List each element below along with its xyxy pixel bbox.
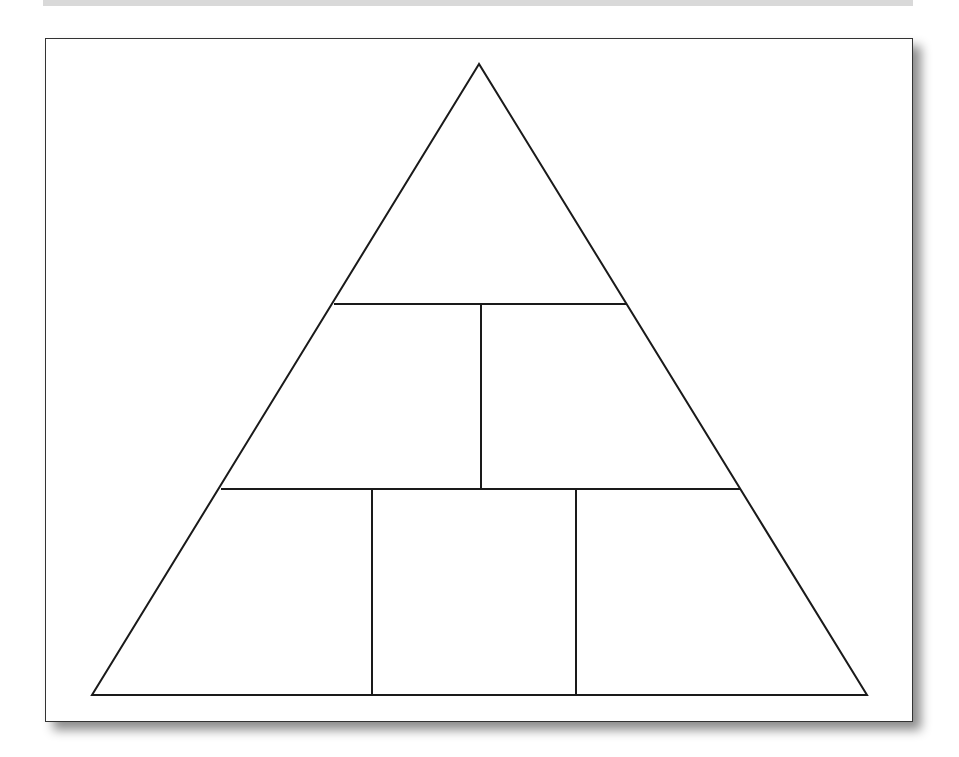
- page: [0, 0, 959, 757]
- pyramid-diagram: [0, 0, 959, 757]
- pyramid-outline: [92, 64, 867, 695]
